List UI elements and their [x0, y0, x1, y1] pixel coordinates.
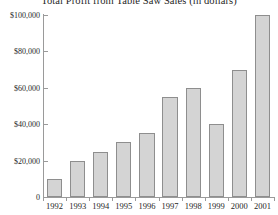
- bar: [186, 88, 201, 197]
- x-axis-tick: [205, 197, 206, 201]
- bar: [232, 70, 247, 197]
- bar-chart-figure: Total Profit from Table Saw Sales (in do…: [0, 0, 278, 215]
- x-axis-tick-label: 1997: [162, 201, 179, 211]
- x-axis-tick: [182, 197, 183, 201]
- x-axis-tick-label: 1992: [46, 201, 63, 211]
- x-axis-tick-label: 1995: [115, 201, 132, 211]
- bar: [139, 133, 154, 197]
- y-axis-tick-label: $80,000: [14, 47, 40, 56]
- y-axis-tick-label: $100,000: [10, 11, 40, 20]
- plot-area: [43, 15, 274, 197]
- x-axis-tick-label: 2001: [254, 201, 271, 211]
- bar: [116, 142, 131, 197]
- bar: [255, 15, 270, 197]
- x-axis-tick-label: 2000: [231, 201, 248, 211]
- chart-title: Total Profit from Table Saw Sales (in do…: [0, 0, 278, 6]
- x-axis-tick-label: 1994: [92, 201, 109, 211]
- x-axis-tick: [43, 197, 44, 201]
- bar: [162, 97, 177, 197]
- x-axis-tick: [251, 197, 252, 201]
- x-axis-tick-label: 1998: [185, 201, 202, 211]
- x-axis-tick-label: 1993: [69, 201, 86, 211]
- bar: [70, 161, 85, 197]
- x-axis-tick: [66, 197, 67, 201]
- x-axis-tick-label: 1999: [208, 201, 225, 211]
- bar: [47, 179, 62, 197]
- x-axis-tick: [89, 197, 90, 201]
- x-axis-tick-label: 1996: [138, 201, 155, 211]
- x-axis-tick: [228, 197, 229, 201]
- y-axis-tick-label: $20,000: [14, 156, 40, 165]
- x-axis-tick: [135, 197, 136, 201]
- y-axis-tick-label: 0: [36, 193, 40, 202]
- y-axis-tick-label: $60,000: [14, 83, 40, 92]
- x-axis-tick: [112, 197, 113, 201]
- bar: [93, 152, 108, 198]
- x-axis-tick: [274, 197, 275, 201]
- y-axis-tick-label: $40,000: [14, 120, 40, 129]
- x-axis-tick: [159, 197, 160, 201]
- bar: [209, 124, 224, 197]
